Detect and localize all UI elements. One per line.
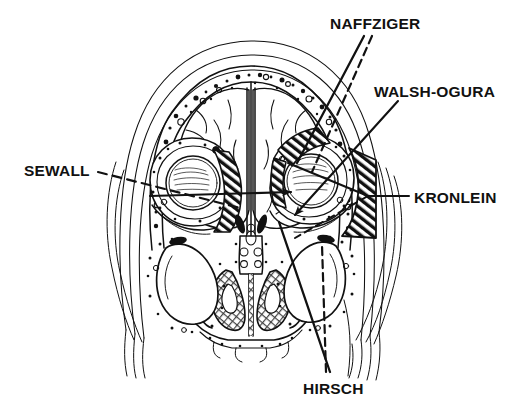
scalp-lines-right — [344, 300, 380, 380]
figure-canvas: NAFFZIGER WALSH-OGURA KRONLEIN SEWALL HI… — [0, 0, 522, 416]
label-kronlein: KRONLEIN — [414, 190, 497, 206]
temporal-contours-left — [107, 162, 142, 342]
maxillary-sinus-left — [157, 244, 218, 324]
label-walsh-ogura: WALSH-OGURA — [374, 84, 495, 100]
label-hirsch: HIRSCH — [303, 381, 364, 397]
label-sewall: SEWALL — [24, 163, 90, 179]
maxillary-sinus-right — [284, 242, 345, 322]
skull-coronal-section-illustration — [0, 0, 522, 416]
label-naffziger: NAFFZIGER — [330, 16, 421, 32]
nasal-septum — [249, 274, 253, 336]
scalp-lines-left — [125, 330, 145, 378]
